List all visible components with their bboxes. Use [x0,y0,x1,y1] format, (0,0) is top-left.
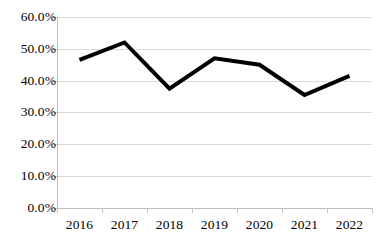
line-chart: 60.0% 50.0% 40.0% 30.0% 20.0% 10.0% 0.0%… [0,0,382,250]
data-series-line [80,42,350,95]
series-layer [0,0,382,250]
